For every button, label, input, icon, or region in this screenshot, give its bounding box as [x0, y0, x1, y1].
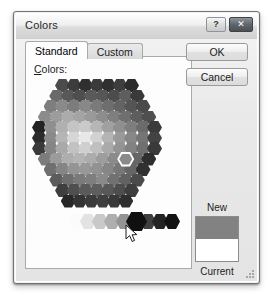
resize-grip[interactable]: [243, 267, 254, 278]
question-mark-icon: ?: [213, 20, 219, 29]
colors-dialog: Colors ? ✕ Standard Custom: [13, 11, 260, 284]
dialog-inner-frame: Colors ? ✕ Standard Custom: [15, 13, 258, 282]
tab-custom[interactable]: Custom: [87, 43, 143, 59]
title-bar[interactable]: Colors ? ✕: [16, 14, 257, 39]
ok-button[interactable]: OK: [186, 43, 248, 61]
cancel-button-label: Cancel: [201, 71, 234, 83]
dialog-title: Colors: [25, 19, 58, 31]
preview-swatch-box: [195, 216, 239, 262]
current-color-label: Current: [186, 266, 248, 277]
help-button[interactable]: ?: [206, 17, 226, 32]
standard-tab-panel: Colors:: [25, 56, 192, 269]
color-preview: New Current: [186, 202, 248, 277]
cancel-button[interactable]: Cancel: [186, 68, 248, 86]
close-icon: ✕: [237, 20, 245, 29]
tab-strip: Standard Custom: [25, 41, 142, 59]
new-color-swatch: [196, 217, 238, 239]
new-color-label: New: [186, 202, 248, 213]
current-color-swatch: [196, 239, 238, 261]
screen: Colors ? ✕ Standard Custom: [0, 0, 272, 295]
ok-button-label: OK: [209, 46, 224, 58]
tab-standard-label: Standard: [35, 45, 78, 57]
color-honeycomb-grid[interactable]: [32, 79, 187, 207]
colors-label-accel: C: [34, 63, 42, 75]
colors-label: Colors:: [34, 63, 67, 75]
caption-button-group: ? ✕: [206, 17, 253, 32]
colors-label-rest: olors:: [42, 63, 68, 75]
mouse-cursor-icon: [125, 224, 138, 243]
tab-custom-label: Custom: [97, 46, 133, 58]
close-button[interactable]: ✕: [229, 17, 253, 32]
tab-standard[interactable]: Standard: [25, 41, 88, 59]
gray-swatch-hex[interactable]: [164, 214, 180, 229]
